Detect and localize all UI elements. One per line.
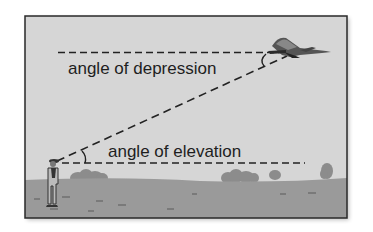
angle-diagram: angle of depression angle of elevation: [0, 0, 373, 232]
label-angle-of-depression: angle of depression: [68, 59, 216, 78]
ground: [25, 178, 347, 218]
label-angle-of-elevation: angle of elevation: [108, 142, 241, 161]
